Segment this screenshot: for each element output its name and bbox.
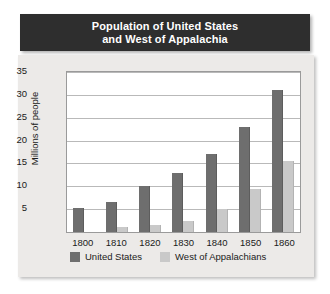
bar	[172, 173, 183, 232]
bar-group	[172, 72, 194, 232]
x-tick-label: 1860	[264, 237, 304, 248]
y-tick-label: 35	[1, 65, 27, 76]
bar	[183, 221, 194, 232]
chart-title-banner: Population of United States and West of …	[20, 14, 310, 51]
bar	[272, 90, 283, 232]
bar	[206, 154, 217, 232]
y-tick-label: 10	[1, 179, 27, 190]
bar	[139, 186, 150, 232]
y-tick-label: 30	[1, 88, 27, 99]
title-line-1: Population of United States	[92, 20, 238, 32]
legend-label: United States	[85, 251, 142, 262]
bar-group	[106, 72, 128, 232]
chart-legend: United StatesWest of Appalachians	[70, 251, 266, 262]
bar-group	[73, 72, 95, 232]
bar-groups	[67, 72, 300, 232]
chart-figure: Population of United States and West of …	[0, 0, 330, 294]
bar	[73, 208, 84, 232]
y-axis-label: Millions of people	[29, 69, 40, 189]
page-title: Population of United States and West of …	[92, 20, 238, 46]
plot-area	[66, 71, 301, 233]
bar-group	[272, 72, 294, 232]
bar	[239, 127, 250, 232]
legend-swatch	[70, 252, 80, 262]
bar-group	[206, 72, 228, 232]
bar	[150, 225, 161, 232]
y-tick-label: 20	[1, 134, 27, 145]
title-line-2: and West of Appalachia	[102, 33, 228, 45]
bar	[250, 189, 261, 232]
bar-group	[139, 72, 161, 232]
chart-panel: Millions of people 5101520253035 1800181…	[18, 55, 314, 277]
y-tick-label: 25	[1, 111, 27, 122]
y-tick-label: 5	[1, 202, 27, 213]
bar-group	[239, 72, 261, 232]
legend-label: West of Appalachians	[175, 251, 266, 262]
bar	[106, 202, 117, 232]
legend-item: United States	[70, 251, 142, 262]
legend-swatch	[160, 252, 170, 262]
bar	[117, 227, 128, 232]
y-tick-label: 15	[1, 156, 27, 167]
legend-item: West of Appalachians	[160, 251, 266, 262]
bar	[283, 161, 294, 232]
bar	[217, 209, 228, 232]
